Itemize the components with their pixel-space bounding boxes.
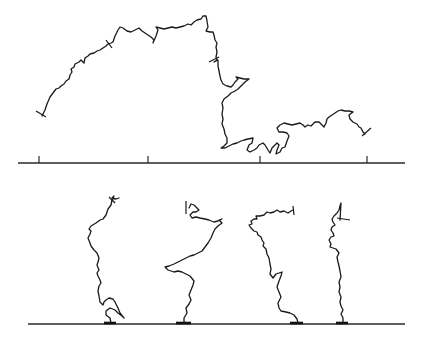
diagram-svg: [0, 0, 425, 341]
grafted-chain-1: [88, 196, 124, 323]
grafted-chain-3: [249, 206, 303, 323]
chain-path: [249, 210, 298, 323]
chain-end-cap: [293, 206, 294, 215]
chain-segment-mark: [106, 40, 112, 48]
chain-end-cap: [337, 218, 350, 220]
grafted-chain-2: [165, 201, 222, 323]
chain-path: [88, 196, 124, 323]
polymer-chain-diagram: [0, 0, 425, 341]
grafted-chain-4: [329, 203, 350, 323]
top-chain-mid-marks: [106, 40, 219, 62]
bottom-panel: [28, 196, 405, 324]
top-panel: [18, 16, 405, 163]
chain-path: [165, 204, 222, 323]
grafted-chains: [88, 196, 350, 323]
top-chain-path: [42, 16, 365, 154]
top-ticks: [39, 156, 367, 163]
chain-path: [329, 203, 343, 323]
